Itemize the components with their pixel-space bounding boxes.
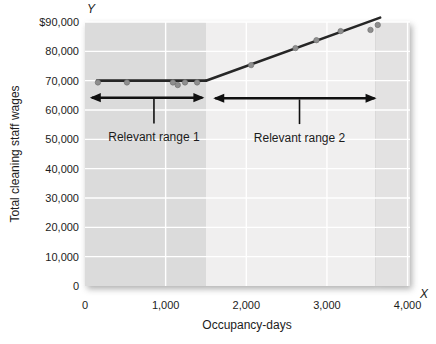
data-point: [375, 22, 380, 27]
y-tick-label: 40,000: [45, 163, 79, 175]
x-tick-label: 4,000: [394, 299, 422, 311]
x-tick-label: 0: [82, 299, 88, 311]
data-point: [182, 80, 187, 85]
data-point: [293, 45, 298, 50]
data-point: [314, 37, 319, 42]
wages-vs-occupancy-chart: Relevant range 1Relevant range 2010,0002…: [0, 0, 436, 344]
beyond-data-band: [375, 22, 410, 286]
data-point: [124, 80, 129, 85]
y-tick-label: 50,000: [45, 133, 79, 145]
plot-background: [85, 22, 410, 286]
x-tick-label: 2,000: [233, 299, 261, 311]
range-annotation-label: Relevant range 1: [108, 130, 200, 144]
relevant-range-1-band: [85, 22, 206, 286]
y-tick-label: 70,000: [45, 75, 79, 87]
y-axis-letter: Y: [87, 2, 96, 16]
y-tick-label: 80,000: [45, 45, 79, 57]
relevant-range-2-band: [206, 22, 375, 286]
cost-behavior-figure: Total cleaning staff wages Occupancy-day…: [0, 0, 436, 344]
data-point: [175, 82, 180, 87]
range-annotation-label: Relevant range 2: [254, 131, 346, 145]
y-tick-label: 30,000: [45, 192, 79, 204]
data-point: [95, 80, 100, 85]
y-tick-label: 10,000: [45, 251, 79, 263]
y-tick-label: 0: [73, 280, 79, 292]
x-axis-letter: X: [419, 287, 429, 301]
y-tick-label: 60,000: [45, 104, 79, 116]
y-tick-label: 20,000: [45, 221, 79, 233]
data-point: [194, 80, 199, 85]
data-point: [338, 28, 343, 33]
x-tick-label: 1,000: [152, 299, 180, 311]
data-point: [368, 27, 373, 32]
y-tick-label: $90,000: [39, 16, 79, 28]
x-tick-label: 3,000: [313, 299, 341, 311]
data-point: [248, 62, 253, 67]
